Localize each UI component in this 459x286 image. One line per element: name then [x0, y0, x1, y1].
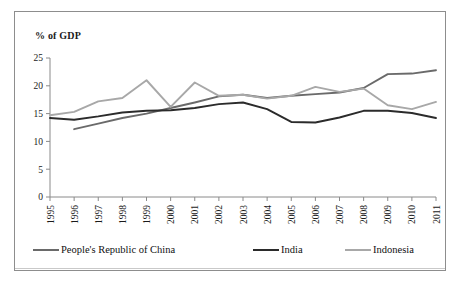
x-axis-tick-label: 2009: [383, 205, 393, 224]
x-axis-tick-label: 1996: [70, 205, 80, 224]
legend-item[interactable]: India: [253, 245, 303, 256]
x-axis-tick-label: 2005: [287, 205, 297, 224]
x-axis-tick-label: 2001: [190, 205, 200, 224]
chart-figure: % of GDP 0510152025199519961997199819992…: [0, 0, 459, 286]
x-axis-tick-label: 2000: [166, 205, 176, 224]
x-axis-tick-label: 1997: [94, 205, 104, 224]
y-axis-tick-label: 25: [34, 53, 44, 63]
legend-separator: [15, 268, 445, 269]
x-axis-tick-label: 1998: [118, 205, 128, 224]
legend-swatch: [33, 249, 59, 251]
x-axis-tick-label: 2010: [407, 205, 417, 224]
legend-swatch: [253, 249, 279, 251]
legend-label: People's Republic of China: [61, 245, 175, 256]
legend-label: Indonesia: [373, 245, 414, 256]
series-line-people-s-republic-of-china: [74, 70, 436, 129]
legend-item[interactable]: Indonesia: [345, 245, 414, 256]
x-axis-tick-label: 1995: [46, 205, 56, 224]
x-axis-tick-label: 2003: [239, 205, 249, 224]
x-axis-tick-label: 2002: [214, 205, 224, 224]
x-axis-tick-label: 2007: [335, 205, 345, 224]
legend-label: India: [281, 245, 303, 256]
x-axis-tick-label: 2008: [359, 205, 369, 224]
y-axis-tick-label: 5: [38, 165, 43, 175]
y-axis-tick-label: 10: [34, 137, 44, 147]
legend-swatch: [345, 249, 371, 251]
x-axis-tick-label: 1999: [142, 205, 152, 224]
x-axis-tick-label: 2004: [263, 205, 273, 224]
x-axis-tick-label: 2006: [311, 205, 321, 224]
chart-plot-area: 0510152025199519961997199819992000200120…: [14, 11, 446, 271]
chart-legend: People's Republic of ChinaIndiaIndonesia: [15, 245, 445, 271]
y-axis-tick-label: 0: [38, 192, 43, 202]
x-axis-tick-label: 2011: [432, 205, 442, 224]
legend-item[interactable]: People's Republic of China: [33, 245, 175, 256]
y-axis-tick-label: 15: [34, 109, 44, 119]
y-axis-tick-label: 20: [34, 81, 44, 91]
series-line-india: [50, 102, 436, 122]
